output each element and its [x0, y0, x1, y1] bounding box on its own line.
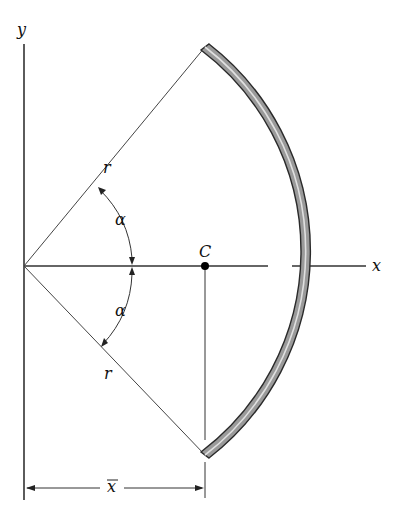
x-axis-label: x: [372, 258, 381, 274]
arrow-lower-axis: [129, 267, 135, 275]
arrow-upper-radius: [98, 187, 106, 195]
circular-arc-rod: [201, 44, 310, 458]
y-axis-label: y: [17, 22, 26, 38]
radius-upper: [24, 47, 205, 266]
radius-lower: [24, 266, 205, 455]
arc-highlight: [205, 47, 306, 455]
centroid-point: [201, 262, 209, 270]
xbar-label: x: [107, 479, 116, 495]
arrow-upper-axis: [129, 257, 135, 265]
xbar-arrow-left: [26, 485, 35, 491]
radius-lower-label: r: [104, 366, 112, 382]
centroid-label: C: [199, 244, 211, 260]
angle-lower-label: α: [115, 303, 126, 319]
arc-diagram: [0, 0, 394, 530]
angle-upper-label: α: [115, 212, 126, 228]
xbar-arrow-right: [195, 485, 204, 491]
radius-upper-label: r: [103, 160, 111, 176]
